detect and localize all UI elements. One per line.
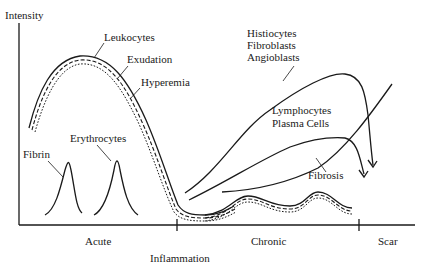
fibrosis-curve — [222, 84, 392, 192]
leader-exudation — [118, 66, 128, 78]
label-angioblasts: Angioblasts — [247, 51, 300, 63]
phase-label-scar: Scar — [378, 235, 398, 247]
leader-erythrocytes — [97, 145, 111, 161]
inflammation-label: Inflammation — [150, 252, 210, 264]
label-histiocytes: Histiocytes — [247, 27, 297, 39]
exudation-curve — [32, 60, 235, 218]
label-plasma-cells: Plasma Cells — [272, 117, 329, 129]
y-axis-label: Intensity — [5, 9, 44, 21]
label-hyperemia: Hyperemia — [141, 76, 190, 88]
inflammation-diagram: Intensity Acute Chronic Scar Inflammatio… — [0, 0, 422, 267]
leader-fibrin — [48, 161, 63, 177]
label-leukocytes: Leukocytes — [104, 31, 155, 43]
label-exudation: Exudation — [127, 53, 173, 65]
label-erythrocytes: Erythrocytes — [70, 132, 126, 144]
phase-label-acute: Acute — [85, 235, 111, 247]
histiocytes-curve — [185, 74, 373, 193]
leader-leukocytes — [94, 43, 104, 58]
label-fibrosis: Fibrosis — [308, 169, 343, 181]
erythrocytes-curve — [94, 161, 138, 215]
hyperemia-curve — [35, 64, 236, 221]
leukocytes-chronic-wave — [205, 192, 352, 215]
phase-label-chronic: Chronic — [251, 235, 287, 247]
label-lymphocytes: Lymphocytes — [272, 104, 331, 116]
leader-histiocytes — [283, 66, 294, 81]
label-fibroblasts: Fibroblasts — [247, 39, 296, 51]
label-fibrin: Fibrin — [23, 148, 50, 160]
fibrin-curve — [45, 163, 82, 216]
